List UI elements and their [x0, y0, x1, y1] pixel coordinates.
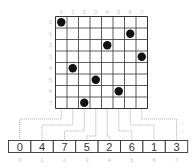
connector-line	[107, 110, 109, 141]
queen-marker	[92, 76, 100, 84]
queen-marker	[138, 53, 146, 61]
chessboard: 0123456701234567	[49, 9, 148, 109]
array-index: 6	[152, 157, 156, 163]
array-value: 3	[173, 141, 179, 153]
row-label: 2	[49, 42, 53, 48]
column-label: 4	[106, 9, 110, 15]
queen-marker	[103, 41, 111, 49]
row-label: 6	[49, 88, 53, 94]
array-value: 5	[84, 141, 90, 153]
column-label: 2	[83, 9, 87, 15]
connectors	[20, 110, 177, 141]
eight-queens-diagram: 01234567012345670041725324651637	[0, 0, 196, 168]
connector-line	[20, 110, 62, 141]
queen-marker	[115, 87, 123, 95]
row-label: 4	[49, 65, 53, 71]
array-index: 1	[40, 157, 44, 163]
queen-marker	[69, 64, 77, 72]
diagram: 01234567012345670041725324651637	[0, 0, 196, 168]
queen-marker	[80, 99, 88, 107]
row-label: 0	[49, 19, 53, 25]
array-index: 7	[175, 157, 179, 163]
array-value: 7	[61, 141, 67, 153]
row-label: 3	[49, 54, 53, 60]
column-label: 0	[60, 9, 64, 15]
queen-marker	[57, 18, 65, 26]
array-value: 2	[106, 141, 112, 153]
column-label: 7	[140, 9, 144, 15]
queen-marker	[126, 30, 134, 38]
array-value: 6	[129, 141, 135, 153]
array-value: 1	[151, 141, 157, 153]
connector-line	[42, 110, 73, 141]
array-index: 0	[18, 157, 22, 163]
column-label: 5	[117, 9, 121, 15]
column-label: 6	[129, 9, 133, 15]
row-label: 1	[49, 31, 53, 37]
array-index: 3	[85, 157, 89, 163]
connector-line	[130, 110, 154, 141]
array-index: 4	[108, 157, 112, 163]
array-value: 4	[39, 141, 45, 153]
row-label: 5	[49, 77, 53, 83]
column-label: 3	[94, 9, 98, 15]
connector-line	[87, 110, 96, 141]
array-value: 0	[17, 141, 23, 153]
row-label: 7	[49, 100, 53, 106]
solution-array: 0041725324651637	[9, 141, 188, 163]
connector-line	[119, 110, 132, 141]
array-index: 2	[63, 157, 67, 163]
array-index: 5	[130, 157, 134, 163]
column-label: 1	[71, 9, 75, 15]
